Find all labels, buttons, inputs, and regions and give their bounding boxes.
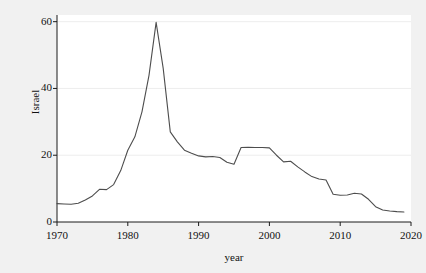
x-tick-label: 1980 bbox=[103, 230, 153, 241]
y-tick-label: 60 bbox=[20, 16, 52, 27]
x-tick-label: 1970 bbox=[32, 230, 82, 241]
data-series-line-israel bbox=[57, 22, 404, 212]
gridlines bbox=[57, 22, 411, 156]
x-tick-label: 2010 bbox=[315, 230, 365, 241]
y-tick-label: 20 bbox=[20, 149, 52, 160]
x-tick-label: 2000 bbox=[244, 230, 294, 241]
chart-figure: 0204060 197019801990200020102020 Israel … bbox=[0, 0, 426, 273]
axis-ticks bbox=[53, 22, 411, 226]
y-tick-label: 0 bbox=[20, 216, 52, 227]
x-tick-label: 2020 bbox=[386, 230, 426, 241]
x-tick-label: 1990 bbox=[174, 230, 224, 241]
x-axis-title: year bbox=[57, 251, 411, 263]
y-axis-title: Israel bbox=[29, 72, 41, 132]
